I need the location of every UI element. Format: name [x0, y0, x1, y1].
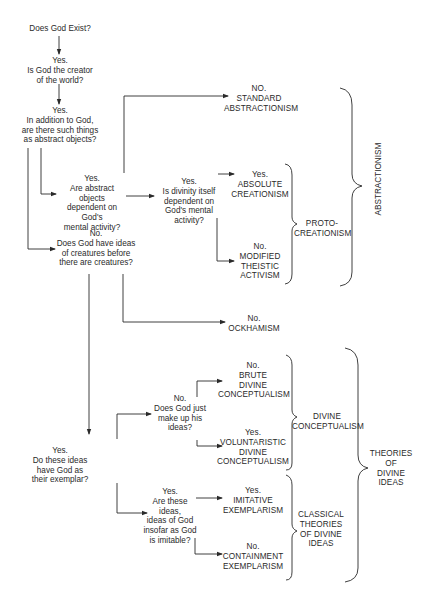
- outcome-brute-divine-conceptualism: No. BRUTE DIVINE CONCEPTUALISM: [218, 361, 288, 400]
- group-classical-theories: CLASSICAL THEORIES OF DIVINE IDEAS: [293, 510, 349, 549]
- arrow-q3-q6: [28, 148, 55, 249]
- question-god-creator: Yes. Is God the creator of the world?: [14, 56, 106, 85]
- outcome-voluntaristic-divine-conceptualism: Yes. VOLUNTARISTIC DIVINE CONCEPTUALISM: [216, 428, 290, 467]
- brace-abstractionism: [340, 88, 362, 286]
- question-abstract-objects-dependent: Yes. Are abstract objects dependent on G…: [56, 174, 128, 233]
- question-divinity-dependent: Yes. Is divinity itself dependent on God…: [159, 177, 219, 226]
- arrow-q3-q4: [41, 148, 56, 194]
- question-god-as-exemplar: Yes. Do these ideas have God as their ex…: [28, 446, 92, 485]
- question-god-makes-up-ideas: No. Does God just make up his ideas?: [152, 394, 208, 433]
- arrow-q6-ockhamism: [123, 274, 225, 322]
- question-god-imitable: Yes. Are these ideas, ideas of God insof…: [142, 487, 198, 546]
- outcome-modified-theistic-activism: No. MODIFIED THEISTIC ACTIVISM: [230, 242, 290, 281]
- outcome-ockhamism: No. OCKHAMISM: [224, 314, 284, 334]
- group-divine-conceptualism: DIVINE CONCEPTUALISM: [292, 412, 362, 432]
- outcome-imitative-exemplarism: Yes. IMITATIVE EXEMPLARISM: [220, 486, 286, 515]
- question-does-god-exist: Does God Exist?: [19, 24, 101, 34]
- group-abstractionism: ABSTRACTIONISM: [374, 156, 383, 216]
- outcome-standard-abstractionism: NO. STANDARD ABSTRACTIONISM: [224, 84, 294, 113]
- group-theories-of-divine-ideas: THEORIES OF DIVINE IDEAS: [366, 449, 416, 488]
- question-god-has-ideas: No. Does God have ideas of creatures bef…: [55, 229, 137, 268]
- arrow-q4-standard: [124, 96, 228, 173]
- connector-lines: [0, 0, 435, 590]
- outcome-containment-exemplarism: No. CONTAINMENT EXEMPLARISM: [220, 542, 286, 571]
- arrow-q9-containment: [195, 538, 222, 554]
- group-proto-creationism: PROTO- CREATIONISM: [294, 219, 350, 239]
- arrow-q7-q8: [117, 414, 151, 439]
- question-abstract-objects: Yes. In addition to God, are there such …: [8, 106, 112, 145]
- outcome-absolute-creationism: Yes. ABSOLUTE CREATIONISM: [230, 170, 290, 199]
